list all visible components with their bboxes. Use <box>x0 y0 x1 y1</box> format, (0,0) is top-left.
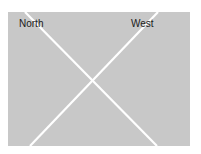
label-north: North <box>19 19 43 29</box>
crossing-lines <box>8 12 190 146</box>
diagram-panel: North West <box>8 12 190 146</box>
label-west: West <box>131 19 154 29</box>
diagonal-line-ne-sw <box>30 12 158 146</box>
diagonal-line-nw-se <box>25 12 157 146</box>
